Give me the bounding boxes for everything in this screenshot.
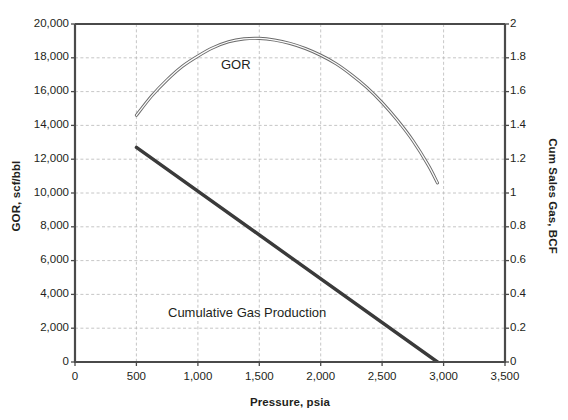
xtick-label-3: 1,500 (229, 370, 289, 382)
y-axis-title-right: Cum Sales Gas, BCF (547, 116, 559, 276)
xtick-label-4: 2,000 (291, 370, 351, 382)
ytick-label-right-10: 2 (510, 17, 568, 29)
xtick-label-6: 3,000 (414, 370, 474, 382)
ytick-label-right-0: 0 (510, 355, 568, 367)
xtick-label-1: 500 (106, 370, 166, 382)
ytick-label-right-4: 0.8 (510, 219, 568, 231)
ytick-label-left-0: 0 (11, 355, 69, 367)
xtick-label-7: 3,500 (475, 370, 535, 382)
xtick-label-2: 1,000 (168, 370, 228, 382)
ytick-label-left-9: 18,000 (11, 50, 69, 62)
ytick-label-right-2: 0.4 (510, 287, 568, 299)
ytick-label-right-7: 1.4 (510, 118, 568, 130)
ytick-label-right-5: 1 (510, 186, 568, 198)
ytick-label-right-8: 1.6 (510, 84, 568, 96)
ytick-label-right-1: 0.2 (510, 321, 568, 333)
ytick-label-left-8: 16,000 (11, 84, 69, 96)
y-axis-title-left: GOR, scf/bbl (10, 126, 22, 266)
ytick-label-left-2: 4,000 (11, 287, 69, 299)
xtick-label-5: 2,500 (352, 370, 412, 382)
ytick-label-right-6: 1.2 (510, 152, 568, 164)
ytick-label-left-1: 2,000 (11, 321, 69, 333)
chart-figure: 0 2,000 4,000 6,000 8,000 10,000 12,000 … (0, 0, 568, 420)
xtick-label-0: 0 (45, 370, 105, 382)
ytick-label-right-9: 1.8 (510, 50, 568, 62)
cumulative-series-annotation: Cumulative Gas Production (168, 305, 326, 320)
ytick-label-left-10: 20,000 (11, 17, 69, 29)
gor-series-annotation: GOR (221, 57, 251, 72)
x-axis-title: Pressure, psia (200, 396, 380, 408)
ytick-label-right-3: 0.6 (510, 253, 568, 265)
chart-plot-area (0, 0, 568, 420)
